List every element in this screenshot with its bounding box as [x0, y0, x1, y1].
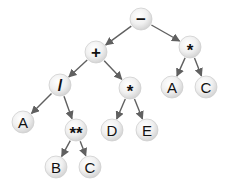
edge-arrow — [195, 58, 202, 76]
edge-arrow — [177, 58, 185, 76]
node-label: / — [58, 76, 63, 95]
operand-node: B — [45, 156, 67, 178]
operator-node: / — [49, 74, 71, 96]
node-label: C — [85, 159, 96, 176]
operator-node: ** — [65, 119, 87, 143]
node-label: D — [107, 122, 118, 139]
edge-arrow — [80, 141, 86, 156]
node-label: C — [201, 79, 212, 96]
operand-node: D — [101, 119, 123, 141]
edge-arrow — [62, 141, 71, 157]
edge-arrow — [151, 25, 179, 41]
operator-node: * — [119, 77, 141, 101]
node-label: − — [136, 10, 146, 29]
edge-arrow — [69, 60, 87, 77]
node-label: * — [127, 82, 134, 101]
node-label: + — [91, 43, 101, 62]
operand-node: C — [195, 76, 217, 98]
operator-node: − — [130, 8, 152, 30]
node-label: B — [51, 159, 61, 176]
node-label: A — [167, 79, 177, 96]
node-label: A — [18, 114, 28, 131]
operand-node: E — [136, 119, 158, 141]
operator-node: * — [179, 36, 201, 60]
edge-arrow — [104, 61, 122, 80]
edge-arrow — [32, 94, 52, 114]
edge-arrow — [106, 26, 132, 45]
edge-arrow — [117, 99, 126, 119]
operand-node: A — [161, 76, 183, 98]
node-label: * — [187, 41, 194, 60]
edge-arrow — [64, 96, 72, 118]
node-label: ** — [69, 124, 83, 143]
operand-node: A — [12, 111, 34, 133]
operand-node: C — [79, 156, 101, 178]
node-label: E — [142, 122, 152, 139]
expression-tree-diagram: −+*/*ACA**DEBC — [0, 0, 225, 188]
nodes-layer: −+*/*ACA**DEBC — [12, 8, 217, 178]
edge-arrow — [135, 99, 143, 119]
operator-node: + — [85, 41, 107, 63]
